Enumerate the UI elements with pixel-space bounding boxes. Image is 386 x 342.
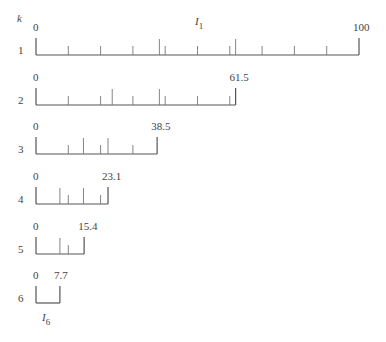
interval-start-label: 0: [33, 71, 39, 83]
interval-i6-label: I6: [41, 311, 51, 327]
row-index-label: 5: [18, 243, 24, 255]
interval-start-label: 0: [33, 269, 39, 281]
interval-end-label: 23.1: [102, 170, 121, 182]
row-index-label: 2: [18, 94, 24, 106]
interval-end-label: 15.4: [78, 220, 98, 232]
interval-end-label: 61.5: [230, 71, 250, 83]
interval-end-label: 100: [353, 21, 370, 33]
interval-end-label: 38.5: [151, 120, 171, 132]
interval-i1-label: I1: [194, 15, 203, 31]
interval-start-label: 0: [33, 220, 39, 232]
interval-rows: 101002061.53038.54023.15015.4607.7: [18, 21, 370, 304]
interval-start-label: 0: [33, 170, 39, 182]
interval-row-k1: 10100: [18, 21, 370, 56]
row-index-label: 6: [18, 292, 24, 304]
row-index-label: 4: [18, 193, 24, 205]
interval-row-k6: 607.7: [18, 269, 68, 304]
interval-row-k3: 3038.5: [18, 120, 171, 155]
interval-start-label: 0: [33, 120, 39, 132]
k-header-label: k: [17, 12, 23, 24]
golden-section-interval-diagram: k I1 101002061.53038.54023.15015.4607.7 …: [0, 0, 386, 342]
interval-row-k2: 2061.5: [18, 71, 249, 106]
interval-row-k5: 5015.4: [18, 220, 98, 255]
interval-start-label: 0: [33, 21, 39, 33]
interval-end-label: 7.7: [54, 269, 68, 281]
row-index-label: 3: [18, 143, 24, 155]
row-index-label: 1: [18, 44, 24, 56]
interval-row-k4: 4023.1: [18, 170, 121, 205]
